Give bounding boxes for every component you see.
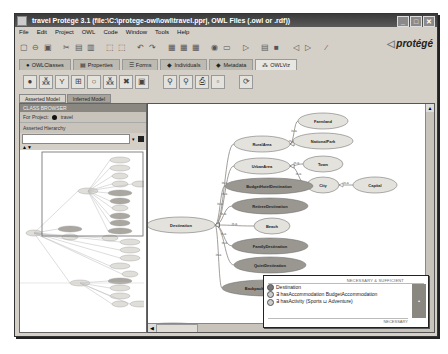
overview-node xyxy=(110,157,130,163)
scroll-up-icon[interactable]: ▲ xyxy=(426,104,434,112)
minimize-button[interactable]: _ xyxy=(397,16,409,27)
tab-forms[interactable]: ☰Forms xyxy=(122,59,159,70)
overview-node xyxy=(120,239,140,245)
class-node-label: QuietDestination xyxy=(254,263,287,268)
tab-icon: ⁂ xyxy=(262,62,268,68)
tab-bar: ●OWLClasses▤Properties☰Forms◆Individuals… xyxy=(19,59,297,70)
run-icon[interactable]: ▷ xyxy=(241,43,250,52)
save-icon[interactable]: ▣ xyxy=(43,43,52,52)
new-icon[interactable]: ▢ xyxy=(19,43,28,52)
menu-owl[interactable]: OWL xyxy=(82,27,96,37)
forward-icon[interactable]: ▷ xyxy=(303,43,312,52)
chevron-down-icon[interactable]: ▾ xyxy=(130,135,136,143)
tab-label: Properties xyxy=(88,62,113,68)
stop-icon[interactable] xyxy=(138,136,144,142)
hide-subclasses-icon[interactable]: ⁂ xyxy=(103,75,117,89)
subtab-asserted-model[interactable]: Asserted Model xyxy=(19,94,66,103)
tooltip-row: Destination xyxy=(264,284,428,291)
tab-owlclasses[interactable]: ●OWLClasses xyxy=(19,59,71,70)
overview-node xyxy=(58,226,82,232)
show-class-icon[interactable]: ● xyxy=(23,75,37,89)
overview-node xyxy=(110,263,130,269)
hide-all-icon[interactable]: ✖ xyxy=(119,75,133,89)
class-browser-header: CLASS BROWSER xyxy=(20,104,146,112)
menu-tools[interactable]: Tools xyxy=(155,27,169,37)
zoom-out-icon[interactable]: ⚲ xyxy=(179,75,193,89)
tab-icon: ● xyxy=(26,62,30,68)
hierarchy-combo: ▾ xyxy=(20,133,146,144)
individual-icon[interactable]: ▦ xyxy=(191,43,200,52)
options-icon[interactable]: ▣ xyxy=(135,75,149,89)
class-node-label: City xyxy=(319,183,327,188)
menu-code[interactable]: Code xyxy=(103,27,117,37)
cut-icon[interactable]: ✂ xyxy=(62,43,71,52)
edge-label: is-a xyxy=(216,253,222,257)
edge-label: is-a xyxy=(221,212,227,216)
overview-edge xyxy=(80,283,112,304)
open-icon[interactable]: ⊖ xyxy=(31,43,40,52)
scroll-thumb[interactable] xyxy=(156,324,198,333)
import-icon[interactable]: ⬚ xyxy=(105,43,114,52)
grid-icon[interactable]: ■ xyxy=(272,43,281,52)
close-button[interactable]: ✕ xyxy=(423,16,435,27)
class-browser-panel: CLASS BROWSER For Project: travel Assert… xyxy=(19,103,147,333)
overview-edge xyxy=(88,184,132,191)
graph-overview[interactable] xyxy=(20,150,146,334)
export-image-icon[interactable]: ⎙ xyxy=(195,75,209,89)
redo-icon[interactable]: ↷ xyxy=(148,43,157,52)
export-icon[interactable]: ⬚ xyxy=(117,43,126,52)
project-row: For Project: travel xyxy=(20,112,146,122)
project-icon xyxy=(52,115,57,120)
tooltip-row-text: ∃ hasAccommodation BudgetAccommodation xyxy=(276,291,377,297)
tooltip-side-button[interactable]: • xyxy=(412,284,426,318)
tooltip-row: ∃ hasActivity (Sports ⊔ Adventure) xyxy=(264,298,428,305)
menu-edit[interactable]: Edit xyxy=(37,27,47,37)
subtab-inferred-model[interactable]: Inferred Model xyxy=(67,94,111,103)
menu-window[interactable]: Window xyxy=(126,27,147,37)
zoom-in-icon[interactable]: ⚲ xyxy=(163,75,177,89)
tab-individuals[interactable]: ◆Individuals xyxy=(160,59,207,70)
wand-icon[interactable]: ⁄ xyxy=(322,43,331,52)
menu-project[interactable]: Project xyxy=(55,27,74,37)
main-toolbar: ▢⊖▣✂▤▥⬚⬚↶↷▦▦▦◉▭▷▤■◁▷⁄ xyxy=(15,37,437,57)
edge-label: is-a xyxy=(222,241,228,245)
maximize-button[interactable]: □ xyxy=(410,16,422,27)
class-icon xyxy=(267,284,274,291)
overview-edge xyxy=(34,233,70,283)
scroll-left-icon[interactable]: ◀ xyxy=(148,324,156,332)
show-all-icon[interactable]: ⊞ xyxy=(71,75,85,89)
class-icon[interactable]: ▦ xyxy=(167,43,176,52)
print-icon[interactable]: ▫ xyxy=(211,75,225,89)
menu-file[interactable]: File xyxy=(19,27,29,37)
overview-node xyxy=(130,301,144,307)
class-node-label: UrbanArea xyxy=(252,164,273,169)
overview-edge xyxy=(88,191,108,231)
tooltip-row-text: ∃ hasActivity (Sports ⊔ Adventure) xyxy=(276,298,353,304)
tooltip-footer: NECESSARY xyxy=(268,318,408,324)
class-node-label: Destination xyxy=(170,223,192,228)
check-icon[interactable]: ▭ xyxy=(222,43,231,52)
tab-metadata[interactable]: ◆Metadata xyxy=(209,59,253,70)
tab-owlviz[interactable]: ⁂OWLViz xyxy=(255,59,297,70)
refresh-icon[interactable]: ⟳ xyxy=(239,75,253,89)
tab-properties[interactable]: ▤Properties xyxy=(73,59,120,70)
show-superclasses-icon[interactable]: Y xyxy=(55,75,69,89)
edge-label: is-a xyxy=(291,129,297,133)
paste-icon[interactable]: ▥ xyxy=(86,43,95,52)
hide-class-icon[interactable]: ○ xyxy=(87,75,101,89)
copy-icon[interactable]: ▤ xyxy=(74,43,83,52)
undo-icon[interactable]: ↶ xyxy=(136,43,145,52)
hierarchy-select[interactable] xyxy=(22,134,130,144)
tab-icon: ☰ xyxy=(129,62,134,68)
class-node-label: RetireeDestination xyxy=(252,204,288,209)
overview-node xyxy=(110,165,130,171)
menu-help[interactable]: Help xyxy=(177,27,189,37)
back-icon[interactable]: ◁ xyxy=(291,43,300,52)
reasoner-icon[interactable]: ◉ xyxy=(210,43,219,52)
tooltip-row: ∃ hasAccommodation BudgetAccommodation xyxy=(264,291,428,298)
property-icon[interactable]: ▦ xyxy=(179,43,188,52)
overview-canvas[interactable] xyxy=(20,150,144,334)
form-icon[interactable]: ▤ xyxy=(260,43,269,52)
overview-node xyxy=(120,255,140,261)
show-subclasses-icon[interactable]: ⁂ xyxy=(39,75,53,89)
